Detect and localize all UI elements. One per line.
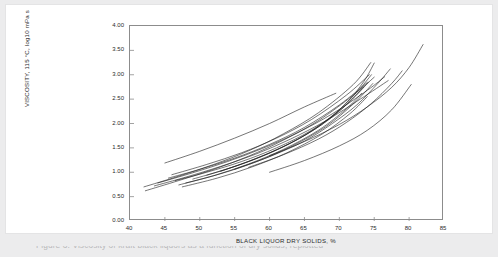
y-tick-label: 0.50 xyxy=(98,193,124,199)
chart-line-liquor-10 xyxy=(182,97,367,187)
chart-line-liquor-2 xyxy=(144,63,371,187)
y-tick-label: 3.00 xyxy=(98,71,124,77)
chart-curves-svg xyxy=(130,26,444,221)
chart-line-liquor-6 xyxy=(168,83,367,179)
x-tick-label: 45 xyxy=(152,225,176,231)
chart-line-liquor-5 xyxy=(158,77,385,183)
chart-page: VISCOSITY, 115 °C, log10 mPa s 0.000.501… xyxy=(0,0,498,257)
page-sheet: VISCOSITY, 115 °C, log10 mPa s 0.000.501… xyxy=(6,5,492,233)
x-tick-label: 65 xyxy=(291,225,315,231)
plot-area xyxy=(129,25,443,220)
chart-line-liquor-18 xyxy=(270,85,412,173)
x-axis-tick-labels: 40455055606570758085 xyxy=(6,225,498,237)
chart-line-liquor-11 xyxy=(186,84,373,183)
x-tick-label: 60 xyxy=(257,225,281,231)
y-tick-label: 2.50 xyxy=(98,95,124,101)
chart-line-liquor-8 xyxy=(175,87,363,181)
figure-caption-strip: Figure 3. Viscosity of kraft black liquo… xyxy=(6,246,492,257)
y-tick-label: 1.00 xyxy=(98,168,124,174)
y-tick-label: 4.00 xyxy=(98,22,124,28)
y-tick-label: 0.00 xyxy=(98,217,124,223)
figure-caption: Figure 3. Viscosity of kraft black liquo… xyxy=(36,246,323,250)
x-tick-label: 85 xyxy=(431,225,455,231)
chart-line-liquor-3 xyxy=(145,77,374,191)
y-tick-label: 1.50 xyxy=(98,144,124,150)
x-tick-label: 55 xyxy=(222,225,246,231)
chart-line-liquor-16 xyxy=(249,71,403,168)
x-tick-label: 70 xyxy=(326,225,350,231)
y-axis-title: VISCOSITY, 115 °C, log10 mPa s xyxy=(23,0,30,139)
x-tick-label: 40 xyxy=(117,225,141,231)
y-axis-tick-labels: 0.000.501.001.502.002.503.003.504.00 xyxy=(98,5,124,257)
x-axis-title: BLACK LIQUOR DRY SOLIDS, % xyxy=(129,237,443,244)
x-tick-label: 75 xyxy=(361,225,385,231)
x-tick-label: 50 xyxy=(187,225,211,231)
y-tick-label: 2.00 xyxy=(98,120,124,126)
y-tick-label: 3.50 xyxy=(98,46,124,52)
x-tick-label: 80 xyxy=(396,225,420,231)
